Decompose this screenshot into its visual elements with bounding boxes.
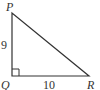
side-label-qr: 10 (43, 78, 55, 90)
right-angle-marker (12, 69, 19, 76)
vertex-label-p: P (5, 0, 14, 14)
vertex-label-r: R (86, 78, 95, 90)
triangle-diagram: P Q R 9 10 (0, 0, 100, 90)
vertex-label-q: Q (1, 78, 10, 90)
triangle-pqr (12, 13, 89, 76)
side-label-pq: 9 (1, 38, 7, 52)
